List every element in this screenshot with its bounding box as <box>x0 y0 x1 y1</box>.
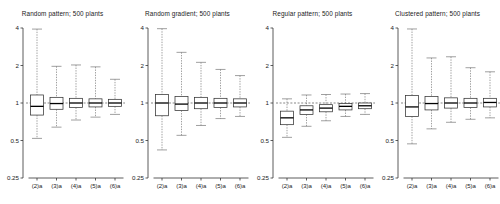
y-tick-label: 0.25 <box>132 174 145 181</box>
y-tick-label: 0.5 <box>10 137 19 144</box>
x-tick-label-(2)a: (2)a <box>282 183 293 189</box>
boxplot-(2)a <box>156 29 169 150</box>
boxplot-(6)a <box>359 94 372 115</box>
y-tick-label: 2 <box>391 62 395 69</box>
panel-2: Random gradient; 500 plants4210.50.25(2)… <box>125 0 250 204</box>
x-tick-label-(4)a: (4)a <box>321 183 332 189</box>
boxplot-(2)a <box>406 29 419 144</box>
x-tick-label-(2)a: (2)a <box>32 183 43 189</box>
x-tick-label-(6)a: (6)a <box>360 183 371 189</box>
y-tick-label: 2 <box>141 62 145 69</box>
x-tick-label-(4)a: (4)a <box>71 183 82 189</box>
x-tick-label-(4)a: (4)a <box>196 183 207 189</box>
plot-area: 4210.50.25(2)a(3)a(4)a(5)a(6)a <box>0 0 125 204</box>
x-tick-label-(3)a: (3)a <box>426 183 437 189</box>
boxplot-(6)a <box>109 79 122 114</box>
y-tick-label: 0.5 <box>260 137 269 144</box>
y-tick-label: 0.25 <box>7 174 20 181</box>
y-tick-label: 1 <box>266 99 270 106</box>
x-tick-label-(2)a: (2)a <box>157 183 168 189</box>
y-tick-label: 2 <box>16 62 20 69</box>
y-tick-label: 0.5 <box>135 137 144 144</box>
x-tick-label-(5)a: (5)a <box>90 183 101 189</box>
boxplot-(6)a <box>484 72 497 118</box>
y-tick-label: 1 <box>141 99 145 106</box>
y-tick-label: 1 <box>391 99 395 106</box>
y-tick-label: 0.25 <box>382 174 395 181</box>
x-tick-label-(5)a: (5)a <box>340 183 351 189</box>
plot-area: 4210.50.25(2)a(3)a(4)a(5)a(6)a <box>125 0 250 204</box>
y-tick-label: 4 <box>16 24 20 31</box>
x-tick-label-(5)a: (5)a <box>215 183 226 189</box>
x-tick-label-(4)a: (4)a <box>446 183 457 189</box>
boxplot-(2)a <box>31 29 44 138</box>
boxplot-(2)a <box>281 99 294 138</box>
boxplot-(5)a <box>89 67 102 117</box>
plot-area: 4210.50.25(2)a(3)a(4)a(5)a(6)a <box>250 0 375 204</box>
boxplot-(3)a <box>300 95 313 126</box>
y-tick-label: 4 <box>141 24 145 31</box>
boxplot-(4)a <box>195 62 208 125</box>
x-tick-label-(6)a: (6)a <box>235 183 246 189</box>
boxplot-(5)a <box>214 69 227 118</box>
y-tick-label: 1 <box>16 99 20 106</box>
x-tick-label-(2)a: (2)a <box>407 183 418 189</box>
panel-3: Regular pattern; 500 plants4210.50.25(2)… <box>250 0 375 204</box>
x-tick-label-(3)a: (3)a <box>176 183 187 189</box>
boxplot-(3)a <box>50 66 63 127</box>
boxplot-(5)a <box>339 94 352 116</box>
boxplot-(4)a <box>320 95 333 121</box>
y-tick-label: 2 <box>266 62 270 69</box>
plot-area: 4210.50.25(2)a(3)a(4)a(5)a(6)a <box>375 0 500 204</box>
boxplot-(3)a <box>175 52 188 135</box>
x-tick-label-(5)a: (5)a <box>465 183 476 189</box>
boxplot-(4)a <box>70 65 83 120</box>
x-tick-label-(3)a: (3)a <box>301 183 312 189</box>
x-tick-label-(6)a: (6)a <box>485 183 496 189</box>
y-tick-label: 4 <box>266 24 270 31</box>
boxplot-(6)a <box>234 76 247 117</box>
panel-4: Clustered pattern; 500 plants4210.50.25(… <box>375 0 500 204</box>
y-tick-label: 0.5 <box>385 137 394 144</box>
y-tick-label: 0.25 <box>257 174 270 181</box>
boxplot-(4)a <box>445 57 458 123</box>
boxplot-(5)a <box>464 68 477 120</box>
boxplot-(3)a <box>425 58 438 129</box>
x-tick-label-(6)a: (6)a <box>110 183 121 189</box>
panel-1: Random pattern; 500 plants4210.50.25(2)a… <box>0 0 125 204</box>
y-tick-label: 4 <box>391 24 395 31</box>
x-tick-label-(3)a: (3)a <box>51 183 62 189</box>
boxplot-figure: Random pattern; 500 plants4210.50.25(2)a… <box>0 0 500 204</box>
